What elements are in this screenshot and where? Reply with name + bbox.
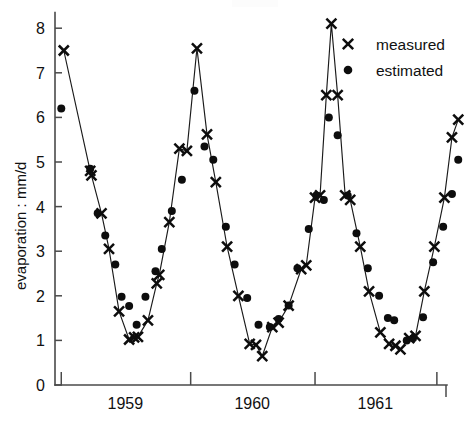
chart-canvas: 012345678 195919601961 measuredestimated… — [0, 0, 469, 433]
estimated-point — [243, 294, 251, 302]
estimated-point — [141, 293, 149, 301]
estimated-point — [325, 113, 333, 121]
measured-point — [211, 177, 221, 187]
measured-point — [233, 291, 243, 301]
measured-point — [355, 242, 365, 252]
y-tick-label: 0 — [36, 377, 45, 394]
measured-point — [257, 351, 267, 361]
y-tick-label: 1 — [36, 332, 45, 349]
estimated-point — [454, 156, 462, 164]
measured-point — [343, 39, 353, 49]
estimated-point — [133, 321, 141, 329]
x-tick-label-1959: 1959 — [108, 395, 144, 412]
estimated-point — [419, 313, 427, 321]
y-tick-label: 7 — [36, 65, 45, 82]
estimated-point — [209, 156, 217, 164]
y-tick-label: 4 — [36, 199, 45, 216]
estimated-point — [334, 131, 342, 139]
estimated-point — [429, 258, 437, 266]
legend-label-estimated: estimated — [376, 62, 443, 79]
estimated-point — [125, 302, 133, 310]
scan-artifact — [232, 0, 278, 7]
measured-point — [375, 327, 385, 337]
estimated-point — [344, 66, 353, 75]
estimated-point — [375, 292, 383, 300]
estimated-point — [255, 321, 263, 329]
y-tick-label: 5 — [36, 154, 45, 171]
estimated-point — [101, 232, 109, 240]
estimated-point — [439, 223, 447, 231]
x-tick-label-1960: 1960 — [234, 395, 270, 412]
estimated-point — [111, 261, 119, 269]
estimated-point — [57, 104, 65, 112]
x-axis: 195919601961 — [55, 372, 447, 412]
estimated-point — [200, 142, 208, 150]
estimated-point — [390, 316, 398, 324]
measured-point — [143, 315, 153, 325]
estimated-point — [190, 87, 198, 95]
measured-point — [222, 242, 232, 252]
y-tick-label: 8 — [36, 20, 45, 37]
x-tick-label-1961: 1961 — [358, 395, 394, 412]
measured-point — [395, 344, 405, 354]
chart-legend: measuredestimated — [343, 36, 445, 79]
estimated-point — [118, 293, 126, 301]
estimated-point — [352, 229, 360, 237]
measured-point — [59, 46, 69, 56]
legend-label-measured: measured — [376, 36, 445, 53]
estimated-point — [158, 245, 166, 253]
estimated-point — [305, 225, 313, 233]
y-axis-title: evaporation : mm/d — [12, 162, 29, 290]
y-tick-label: 2 — [36, 288, 45, 305]
measured-point — [364, 286, 374, 296]
estimated-point — [178, 176, 186, 184]
y-tick-label: 6 — [36, 109, 45, 126]
estimated-point — [168, 207, 176, 215]
measured-point — [429, 242, 439, 252]
estimated-point — [364, 264, 372, 272]
measured-point — [453, 115, 463, 125]
y-tick-label: 3 — [36, 243, 45, 260]
evaporation-chart: 012345678 195919601961 measuredestimated… — [0, 0, 469, 433]
estimated-point — [231, 261, 239, 269]
y-axis: 012345678 — [36, 13, 62, 394]
estimated-point — [222, 223, 230, 231]
measured-point — [419, 286, 429, 296]
measured-point — [152, 278, 162, 288]
